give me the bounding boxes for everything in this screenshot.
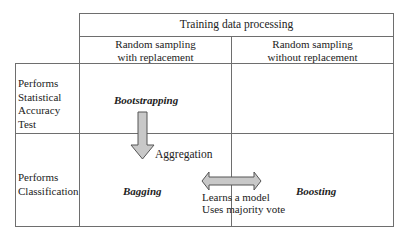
table-left-border xyxy=(15,63,16,227)
uses-majority-vote-label: Uses majority vote xyxy=(202,203,285,215)
header-bottom-border xyxy=(15,63,394,64)
double-arrow-icon xyxy=(201,171,263,192)
down-arrow-icon xyxy=(130,111,156,161)
header-title-divider xyxy=(79,36,394,37)
boosting-label: Boosting xyxy=(296,185,336,197)
row-label-line: Classification xyxy=(18,185,79,199)
row-label-line: Test xyxy=(18,118,61,132)
row-divider xyxy=(15,133,394,134)
row-label-line: Performs xyxy=(18,171,79,185)
learns-a-model-label: Learns a model xyxy=(202,191,270,203)
row-label-line: Performs xyxy=(18,77,61,91)
column-header-line2: without replacement xyxy=(232,51,393,63)
bootstrapping-label: Bootstrapping xyxy=(114,94,178,106)
aggregation-label: Aggregation xyxy=(155,148,212,160)
column-header-line2: with replacement xyxy=(80,51,231,63)
row-label-statistical-accuracy: Performs Statistical Accuracy Test xyxy=(18,77,61,131)
column-header-line1: Random sampling xyxy=(80,38,231,50)
header-top-border xyxy=(79,13,394,14)
row-label-line: Accuracy xyxy=(18,104,61,118)
bagging-label: Bagging xyxy=(123,185,162,197)
table-right-border xyxy=(393,13,394,227)
table-bottom-border xyxy=(15,226,394,227)
column-header-line1: Random sampling xyxy=(232,38,393,50)
column-header-without-replacement: Random sampling without replacement xyxy=(232,38,393,63)
row-label-classification: Performs Classification xyxy=(18,171,79,198)
column-header-with-replacement: Random sampling with replacement xyxy=(80,38,231,63)
row-label-line: Statistical xyxy=(18,91,61,105)
header-title: Training data processing xyxy=(80,18,393,30)
